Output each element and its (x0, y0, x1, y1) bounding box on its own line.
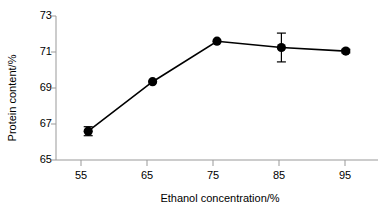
data-point-marker (148, 77, 157, 86)
data-point-marker (341, 47, 350, 56)
data-point-marker (212, 37, 221, 46)
x-axis-ticks (81, 160, 345, 166)
data-point-markers (84, 37, 351, 136)
data-point-marker (277, 43, 286, 52)
data-series-line (88, 41, 346, 131)
protein-content-line-chart: Protein content/% Ethanol concentration/… (0, 0, 386, 212)
plot-area (0, 0, 386, 212)
data-point-marker (84, 127, 93, 136)
y-axis-ticks (51, 16, 56, 160)
